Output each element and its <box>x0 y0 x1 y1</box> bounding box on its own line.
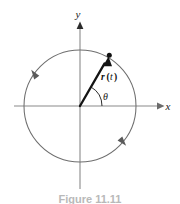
figure-container: y x r ( t ) θ Figure 11.11 <box>0 0 180 204</box>
vector-label-r: r <box>101 72 105 82</box>
vector-label-close-paren: ) <box>114 72 117 83</box>
circle-vector-diagram: y x r ( t ) θ <box>0 0 180 204</box>
x-axis-label: x <box>165 100 171 112</box>
vector-label: r ( t ) <box>101 72 117 83</box>
x-axis <box>14 103 165 110</box>
x-axis-arrowhead-icon <box>157 103 165 110</box>
figure-caption-strip: Figure 11.11 <box>0 193 180 204</box>
angle-label-theta: θ <box>103 91 108 102</box>
vector-label-t: t <box>110 72 113 82</box>
vector-arrowhead-icon <box>103 57 112 67</box>
y-axis-label: y <box>75 8 81 20</box>
angle-arc <box>91 87 102 106</box>
y-axis-arrowhead-icon <box>77 22 84 30</box>
figure-caption: Figure 11.11 <box>0 194 180 204</box>
vector-tip-point <box>107 53 112 58</box>
